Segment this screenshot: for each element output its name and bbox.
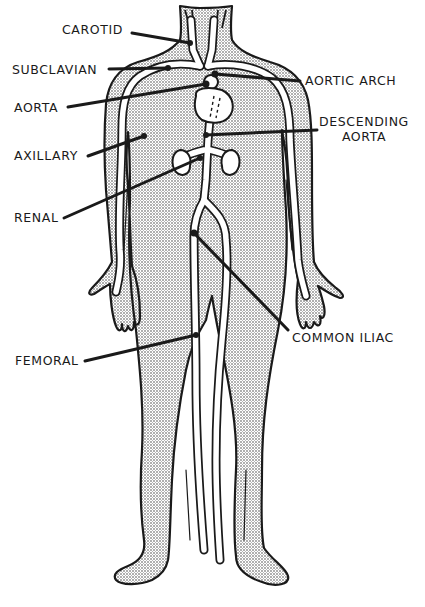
label-carotid: CAROTID [62, 23, 123, 37]
label-descending-aorta-line2: AORTA [312, 130, 416, 144]
label-subclavian: SUBCLAVIAN [12, 63, 97, 77]
label-common-iliac: COMMON ILIAC [292, 331, 394, 345]
label-aortic-arch: AORTIC ARCH [305, 74, 396, 88]
arterial-system-diagram: CAROTID SUBCLAVIAN AORTA AXILLARY RENAL … [0, 0, 425, 607]
label-femoral: FEMORAL [15, 354, 79, 368]
label-aorta: AORTA [14, 101, 58, 115]
label-axillary: AXILLARY [14, 149, 78, 163]
leader-subclavian [109, 68, 168, 69]
body-illustration [0, 0, 425, 607]
label-renal: RENAL [14, 211, 58, 225]
label-descending-aorta-line1: DESCENDING [312, 115, 416, 129]
